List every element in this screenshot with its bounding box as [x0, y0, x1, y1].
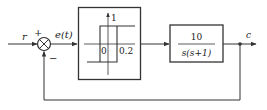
plant-numerator: 10: [191, 32, 203, 42]
origin-label: 0: [101, 46, 107, 56]
error-label: e(t): [55, 29, 73, 40]
threshold-label: 0.2: [119, 46, 133, 56]
plus-sign: +: [34, 27, 42, 38]
block-diagram: r + − e(t) 1 0 0.2 10 s(s+1) c: [0, 0, 267, 110]
minus-sign: −: [49, 53, 57, 64]
hysteresis-relay-block: [79, 8, 141, 80]
summing-junction: [38, 38, 51, 51]
plant-denominator: s(s+1): [182, 48, 212, 58]
output-level-label: 1: [111, 13, 117, 23]
input-label: r: [22, 31, 28, 42]
output-label: c: [246, 30, 251, 40]
